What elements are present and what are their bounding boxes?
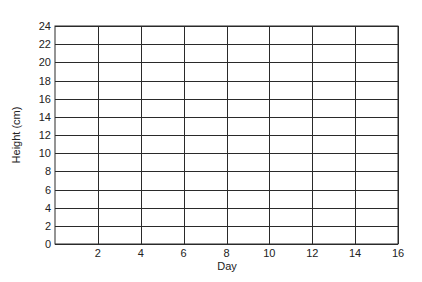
x-axis-label: Day — [217, 260, 237, 272]
y-tick-label: 0 — [45, 238, 51, 250]
x-tick-label: 4 — [138, 247, 144, 259]
y-tick-label: 2 — [45, 220, 51, 232]
y-axis-label: Height (cm) — [10, 107, 22, 164]
y-tick-label: 8 — [45, 165, 51, 177]
y-tick-label: 14 — [39, 111, 51, 123]
x-tick-label: 10 — [263, 247, 275, 259]
y-axis-tick-labels: 024681012141618202224 — [39, 20, 51, 250]
x-tick-label: 8 — [223, 247, 229, 259]
y-tick-label: 10 — [39, 147, 51, 159]
y-tick-label: 12 — [39, 129, 51, 141]
line-graph-grid: 246810121416 024681012141618202224 Day H… — [0, 0, 422, 282]
horizontal-gridlines — [55, 27, 398, 245]
y-tick-label: 4 — [45, 202, 51, 214]
x-tick-label: 14 — [349, 247, 361, 259]
x-tick-label: 2 — [95, 247, 101, 259]
x-tick-label: 6 — [181, 247, 187, 259]
y-tick-label: 24 — [39, 20, 51, 32]
y-tick-label: 20 — [39, 56, 51, 68]
y-tick-label: 6 — [45, 184, 51, 196]
y-tick-label: 18 — [39, 75, 51, 87]
x-axis-tick-labels: 246810121416 — [95, 247, 404, 259]
x-tick-label: 16 — [392, 247, 404, 259]
y-tick-label: 22 — [39, 38, 51, 50]
y-tick-label: 16 — [39, 93, 51, 105]
x-tick-label: 12 — [306, 247, 318, 259]
